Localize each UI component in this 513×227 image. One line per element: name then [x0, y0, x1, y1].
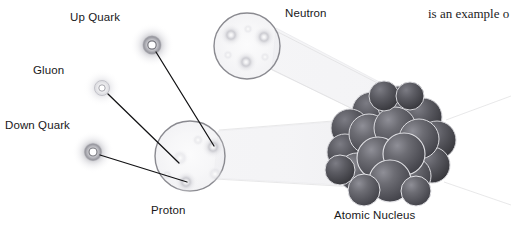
- label-gluon: Gluon: [33, 64, 64, 77]
- label-down-quark: Down Quark: [5, 119, 70, 132]
- up-quark-particle: [130, 23, 174, 67]
- body-text-fragment: is an example o: [428, 6, 509, 21]
- proton-shell: [155, 121, 226, 195]
- label-atomic-nucleus: Atomic Nucleus: [334, 209, 415, 222]
- down-quark-particle: [72, 131, 114, 173]
- label-up-quark: Up Quark: [70, 11, 120, 24]
- label-proton: Proton: [151, 204, 185, 217]
- figure-canvas: Up Quark Gluon Down Quark Proton Neutron…: [0, 0, 513, 227]
- label-neutron: Neutron: [285, 7, 327, 20]
- atomic-structure-diagram: [0, 0, 513, 227]
- neutron-shell: [214, 13, 280, 79]
